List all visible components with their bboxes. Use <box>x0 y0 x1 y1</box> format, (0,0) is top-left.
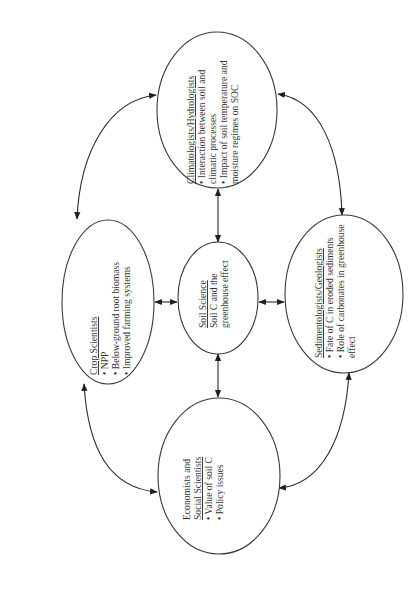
node-bullet: • Fate of C in eroded sediments <box>324 237 335 358</box>
node-bullet: • Role of carbonates in greenhouse <box>335 224 346 358</box>
node-bullet: • Policy issues <box>214 464 225 520</box>
connector-sedimentologists-economists <box>279 373 349 488</box>
node-economists: Economists and Social Scientists • Value… <box>158 398 280 554</box>
connector-economists-crop <box>84 384 157 492</box>
node-crop-scientists: Crop Scientists • NPP • Below-ground roo… <box>62 220 154 384</box>
node-title: Soil Science <box>197 280 208 328</box>
node-title: Climatologists/Hydrologists <box>185 76 196 184</box>
node-title: Social Scientists <box>192 457 203 520</box>
node-title: Sedimentologists/Geologists <box>313 248 324 358</box>
node-soil-science: Soil Science Soil C and the greenhouse e… <box>178 242 258 354</box>
node-line: greenhouse effect <box>219 260 230 328</box>
node-bullet: • Interaction between soil and <box>196 70 207 184</box>
node-bullet: • Improved farming systems <box>121 266 132 375</box>
node-bullet: • NPP <box>99 352 110 375</box>
connector-crop-climatologists <box>77 95 156 219</box>
node-bullet-cont: moisture regimes on SOC <box>229 85 240 184</box>
node-bullet: • Impact of soil temperature and <box>218 60 229 184</box>
diagram-canvas: Climatologists/Hydrologists • Interactio… <box>0 0 415 601</box>
node-bullet-cont: climatic processes <box>207 114 218 184</box>
node-title: Crop Scientists <box>88 316 99 375</box>
node-bullet: • Value of soil C <box>203 457 214 520</box>
node-bullet-cont: effect <box>346 336 357 358</box>
node-bullet: • Below-ground root biomass <box>110 262 121 375</box>
node-sedimentologists: Sedimentologists/Geologists • Fate of C … <box>285 215 403 373</box>
connector-climatologists-sedimentologists <box>278 94 342 215</box>
node-line: Soil C and the <box>208 273 219 328</box>
node-climatologists: Climatologists/Hydrologists • Interactio… <box>157 32 277 188</box>
node-pre-title: Economists and <box>181 459 192 520</box>
